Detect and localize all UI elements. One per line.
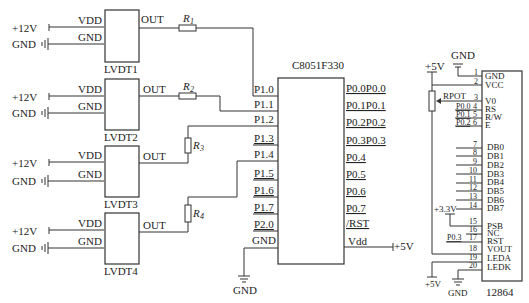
lcd-pin-e: E — [485, 120, 491, 130]
lvdt2-gnd-label: GND — [12, 107, 36, 119]
ground-icon — [42, 38, 48, 50]
ledk-gnd-label: GND — [448, 288, 468, 298]
lvdt1-vdd-pin: VDD — [78, 14, 102, 26]
potentiometer — [429, 91, 435, 111]
svg-text:12: 12 — [469, 183, 477, 192]
lvdt3-out-pin: OUT — [143, 150, 166, 162]
lvdt2-block: +12V VDD GND GND LVDT2 OUT — [12, 79, 179, 143]
svg-text:4: 4 — [200, 212, 204, 221]
mcu-pin-gnd: GND — [252, 234, 276, 246]
lvdt3-block: +12V VDD GND GND LVDT3 OUT — [12, 146, 188, 210]
svg-text:6: 6 — [473, 118, 477, 127]
lvdt4-gnd-label: GND — [12, 242, 36, 254]
lvdt3-vdd-pin: VDD — [78, 149, 102, 161]
svg-text:17: 17 — [469, 233, 477, 242]
lcd-pin-vcc: VCC — [485, 80, 504, 90]
r1-label: R — [182, 12, 190, 24]
net-rst: P0.3 — [447, 233, 461, 242]
ground-icon — [452, 279, 464, 285]
mcu-pin-p0-5: P0.5 — [346, 168, 366, 180]
lcd-pin-db7: DB7 — [487, 203, 505, 213]
lvdt3-box — [105, 146, 139, 197]
ground-icon — [453, 64, 463, 67]
lcd-12864: 12864 GND +5V RPOT P0.0 P0.1 P0.2 4 5 6 — [425, 49, 522, 298]
lvdt2-supply-label: +12V — [12, 91, 37, 103]
mcu-box — [278, 78, 344, 264]
ground-icon — [42, 175, 48, 187]
mcu-pin-p1-0: P1.0 — [254, 83, 274, 95]
svg-text:8: 8 — [473, 148, 477, 157]
lvdt4-box — [105, 213, 139, 264]
lvdt1-box — [105, 10, 139, 62]
mcu-pin-p1-4: P1.4 — [254, 148, 274, 160]
mcu-pin-rst: /RST — [346, 217, 370, 229]
lvdt2-label: LVDT2 — [104, 131, 138, 143]
mcu-pin-p1-2: P1.2 — [254, 113, 274, 125]
ground-icon — [42, 107, 48, 119]
svg-text:10: 10 — [469, 166, 477, 175]
mcu-pin-p1-3: P1.3 — [254, 132, 274, 144]
mcu-pin-p1-5: P1.5 — [254, 167, 274, 179]
ground-icon — [42, 242, 48, 254]
svg-text:13: 13 — [469, 192, 477, 201]
svg-text:1: 1 — [190, 17, 194, 26]
lcd-name: 12864 — [486, 286, 514, 298]
lvdt4-vdd-pin: VDD — [78, 217, 102, 229]
mcu-pin-p1-7: P1.7 — [254, 201, 274, 213]
lcd-top-gnd-label: GND — [451, 49, 475, 61]
psb-supply-label: +3.3V — [434, 204, 457, 214]
lvdt3-gnd-pin: GND — [78, 168, 102, 180]
mcu-pin-p1-6: P1.6 — [254, 184, 274, 196]
ground-icon — [238, 276, 250, 282]
mcu-gnd-label: GND — [233, 284, 257, 296]
mcu-pin-p1-1: P1.1 — [254, 98, 274, 110]
lvdt4-label: LVDT4 — [104, 265, 138, 277]
lvdt4-out-pin: OUT — [143, 219, 166, 231]
mcu-name: C8051F330 — [292, 59, 344, 71]
mcu-pin-p0-6: P0.6 — [346, 185, 366, 197]
r2-label: R — [182, 80, 190, 92]
lvdt1-label: LVDT1 — [104, 63, 138, 75]
leda-supply-label: +5V — [425, 279, 442, 289]
lvdt2-gnd-pin: GND — [78, 100, 102, 112]
mcu-pin-p0-3: P0.3P0.3 — [346, 134, 386, 146]
svg-text:18: 18 — [469, 244, 477, 253]
r4-label: R — [192, 207, 200, 219]
lvdt1-supply-label: +12V — [12, 22, 37, 34]
lvdt4-supply-label: +12V — [12, 225, 37, 237]
lvdt1-gnd-label: GND — [12, 38, 36, 50]
lcd-data-bus: 7 8 9 10 11 12 13 14 DB0 DB1 DB2 DB3 DB4… — [456, 140, 505, 213]
svg-text:9: 9 — [473, 157, 477, 166]
lvdt1-out-pin: OUT — [141, 13, 164, 25]
circuit-schematic: +12V VDD GND GND LVDT1 OUT R 1 +12V VDD … — [0, 0, 529, 303]
mcu-pin-p0-0: P0.0P0.0 — [346, 82, 386, 94]
mcu-pin-vdd: Vdd — [348, 235, 367, 247]
lvdt1-gnd-pin: GND — [78, 31, 102, 43]
svg-text:20: 20 — [469, 261, 477, 270]
lcd-top-supply-label: +5V — [425, 60, 445, 72]
lvdt2-out-pin: OUT — [143, 83, 166, 95]
r3-label: R — [192, 139, 200, 151]
svg-text:2: 2 — [190, 85, 194, 94]
mcu-c8051f330: C8051F330 P1.0 P1.1 P1.2 P1.3 P1.4 P1.5 … — [233, 59, 414, 296]
mcu-pin-p0-4: P0.4 — [346, 151, 366, 163]
lvdt1-block: +12V VDD GND GND LVDT1 OUT — [12, 10, 179, 75]
lvdt3-gnd-label: GND — [12, 175, 36, 187]
svg-text:3: 3 — [474, 93, 478, 102]
mcu-pin-p2-0: P2.0 — [254, 218, 274, 230]
lvdt4-gnd-pin: GND — [78, 235, 102, 247]
mcu-pin-p0-7: P0.7 — [346, 202, 366, 214]
lvdt2-box — [105, 79, 139, 130]
lvdt2-vdd-pin: VDD — [78, 83, 102, 95]
mcu-vdd-supply: +5V — [394, 240, 414, 252]
pot-label: RPOT — [443, 91, 467, 101]
lcd-pin-ledk: LEDK — [487, 262, 511, 272]
lvdt4-block: +12V VDD GND GND LVDT4 OUT — [12, 213, 188, 277]
svg-text:14: 14 — [469, 201, 477, 210]
pot-wiper-arrow-icon — [436, 98, 441, 104]
mcu-pin-p0-1: P0.1P0.1 — [346, 99, 386, 111]
svg-text:3: 3 — [199, 144, 204, 153]
lvdt3-supply-label: +12V — [12, 157, 37, 169]
mcu-pin-p0-2: P0.2P0.2 — [346, 116, 386, 128]
svg-text:1: 1 — [474, 68, 478, 77]
